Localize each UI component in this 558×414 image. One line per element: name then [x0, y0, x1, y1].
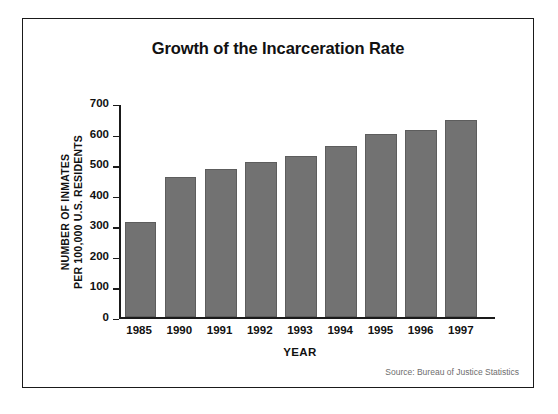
bar-slot — [321, 105, 361, 317]
y-axis-tick-label: 200 — [90, 250, 109, 262]
x-axis-tick-label: 1995 — [360, 324, 400, 336]
bar-slot — [161, 105, 201, 317]
y-axis-tick-mark — [113, 227, 119, 228]
x-axis-tick-label: 1994 — [320, 324, 360, 336]
y-axis-tick-label: 600 — [90, 128, 109, 140]
y-axis-tick-mark — [113, 319, 119, 320]
bar-1997 — [445, 120, 477, 318]
y-axis-title: NUMBER OF INMATES PER 100,000 U.S. RESID… — [57, 105, 87, 319]
y-axis-title-line2: PER 100,000 U.S. RESIDENTS — [72, 135, 85, 289]
plot-area: 0100200300400500600700 — [119, 105, 481, 319]
y-axis-tick-label: 700 — [90, 97, 109, 109]
bar-1995 — [365, 134, 397, 318]
y-axis-tick-mark — [113, 166, 119, 167]
x-axis-tick-label: 1997 — [441, 324, 481, 336]
y-axis-tick-mark — [113, 288, 119, 289]
x-axis-tick-label: 1993 — [280, 324, 320, 336]
bar-slot — [241, 105, 281, 317]
y-axis-tick-mark — [113, 258, 119, 259]
x-axis-tick-label: 1996 — [401, 324, 441, 336]
y-axis-tick-label: 100 — [90, 280, 109, 292]
y-axis-tick-label: 400 — [90, 189, 109, 201]
bar-1990 — [165, 177, 197, 317]
bar-slot — [441, 105, 481, 317]
bar-slot — [361, 105, 401, 317]
y-axis-tick-mark — [113, 197, 119, 198]
bar-slot — [281, 105, 321, 317]
bar-1994 — [325, 146, 357, 317]
source-note: Source: Bureau of Justice Statistics — [385, 367, 519, 377]
y-axis-tick-label: 300 — [90, 219, 109, 231]
x-axis-tick-label: 1991 — [199, 324, 239, 336]
chart-figure: Growth of the Incarceration Rate 0100200… — [22, 18, 534, 388]
chart-title: Growth of the Incarceration Rate — [23, 39, 533, 58]
bar-1992 — [245, 162, 277, 317]
bar-slot — [201, 105, 241, 317]
bar-series — [121, 105, 481, 317]
x-axis-line — [119, 317, 495, 319]
x-axis-tick-label: 1985 — [119, 324, 159, 336]
y-axis-title-line1: NUMBER OF INMATES — [59, 154, 72, 270]
bar-1991 — [205, 169, 237, 317]
y-axis-tick-label: 0 — [103, 311, 109, 323]
y-axis-tick-mark — [113, 136, 119, 137]
x-axis-tick-label: 1992 — [240, 324, 280, 336]
x-axis-title: YEAR — [119, 346, 481, 358]
bar-slot — [121, 105, 161, 317]
x-axis-tick-labels: 198519901991199219931994199519961997 — [119, 324, 481, 336]
bar-slot — [401, 105, 441, 317]
bar-1993 — [285, 156, 317, 317]
x-axis-tick-label: 1990 — [159, 324, 199, 336]
y-axis-tick-label: 500 — [90, 158, 109, 170]
bar-1985 — [125, 222, 157, 317]
y-axis-tick-mark — [113, 105, 119, 106]
bar-1996 — [405, 130, 437, 318]
